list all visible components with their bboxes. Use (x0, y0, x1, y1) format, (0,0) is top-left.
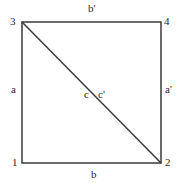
diagonal-line (22, 22, 161, 163)
vertex-label-3: 3 (10, 16, 16, 27)
diagonal-label-c: c (84, 89, 89, 100)
edge-label-top: b' (88, 3, 95, 14)
diagonal-label-c-prime: c' (98, 89, 105, 100)
vertex-label-2: 2 (165, 157, 171, 168)
edge-label-bottom: b (91, 169, 97, 180)
edge-label-right: a' (165, 84, 172, 95)
square-diagram: 3 4 1 2 a a' b' b c c' (0, 0, 179, 183)
edge-label-left: a (11, 84, 16, 95)
vertex-label-1: 1 (12, 157, 18, 168)
vertex-label-4: 4 (164, 16, 170, 27)
square-diagram-lines (0, 0, 179, 183)
